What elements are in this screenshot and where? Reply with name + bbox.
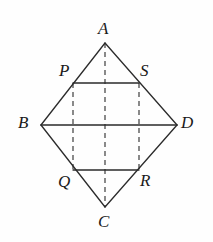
vertex-label-C: C	[98, 213, 109, 230]
geometry-figure-container: A P S B D Q R C	[0, 0, 213, 242]
vertex-label-S: S	[140, 62, 149, 79]
side-AD	[105, 43, 177, 125]
vertex-label-D: D	[181, 114, 193, 131]
vertex-label-R: R	[140, 172, 150, 189]
vertex-label-Q: Q	[58, 173, 70, 190]
vertex-label-B: B	[18, 114, 28, 131]
vertex-label-P: P	[59, 62, 69, 79]
vertex-label-A: A	[98, 20, 108, 37]
side-DC	[105, 125, 177, 207]
